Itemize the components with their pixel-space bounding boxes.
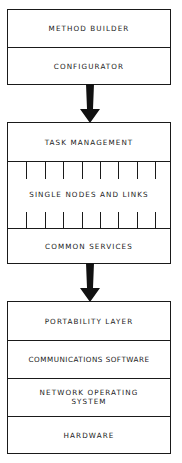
link-tick [63, 212, 64, 228]
link-tick [155, 212, 156, 228]
group-platform: PORTABILITY LAYER COMMUNICATIONS SOFTWAR… [7, 301, 171, 454]
layer-hardware: HARDWARE [8, 416, 170, 454]
layer-label: METHOD BUILDER [49, 24, 130, 33]
layer-label: COMMON SERVICES [45, 242, 133, 251]
layer-label-line-2: SYSTEM [71, 397, 106, 406]
node-tick [118, 161, 119, 179]
layer-single-nodes-and-links: SINGLE NODES AND LINKS [8, 161, 170, 228]
group-runtime: TASK MANAGEMENT SINGLE NODES AND LINKS C… [7, 122, 171, 264]
layer-communications-software: COMMUNICATIONS SOFTWARE [8, 340, 170, 378]
layer-label: SINGLE NODES AND LINKS [29, 190, 149, 199]
layer-method-builder: METHOD BUILDER [8, 10, 170, 47]
node-tick [26, 161, 27, 179]
link-tick [118, 212, 119, 228]
node-tick [100, 161, 101, 179]
layer-network-operating-system: NETWORK OPERATING SYSTEM [8, 378, 170, 416]
layer-configurator: CONFIGURATOR [8, 47, 170, 85]
node-tick [137, 161, 138, 179]
link-tick [26, 212, 27, 228]
link-tick [82, 212, 83, 228]
link-tick [137, 212, 138, 228]
down-arrow-icon [78, 84, 102, 123]
down-arrow-icon [78, 263, 102, 302]
layer-label: COMMUNICATIONS SOFTWARE [29, 355, 150, 364]
layer-label: CONFIGURATOR [54, 62, 124, 71]
layer-common-services: COMMON SERVICES [8, 228, 170, 264]
node-tick [82, 161, 83, 179]
layer-label-line-1: NETWORK OPERATING [40, 388, 139, 397]
layer-label: PORTABILITY LAYER [45, 317, 134, 326]
group-tools: METHOD BUILDER CONFIGURATOR [7, 9, 171, 85]
layer-label: TASK MANAGEMENT [45, 138, 134, 147]
node-tick [155, 161, 156, 179]
node-tick [63, 161, 64, 179]
node-tick [45, 161, 46, 179]
layer-task-management: TASK MANAGEMENT [8, 123, 170, 161]
link-tick [45, 212, 46, 228]
layer-portability-layer: PORTABILITY LAYER [8, 302, 170, 340]
link-tick [100, 212, 101, 228]
layer-label: HARDWARE [64, 431, 115, 440]
